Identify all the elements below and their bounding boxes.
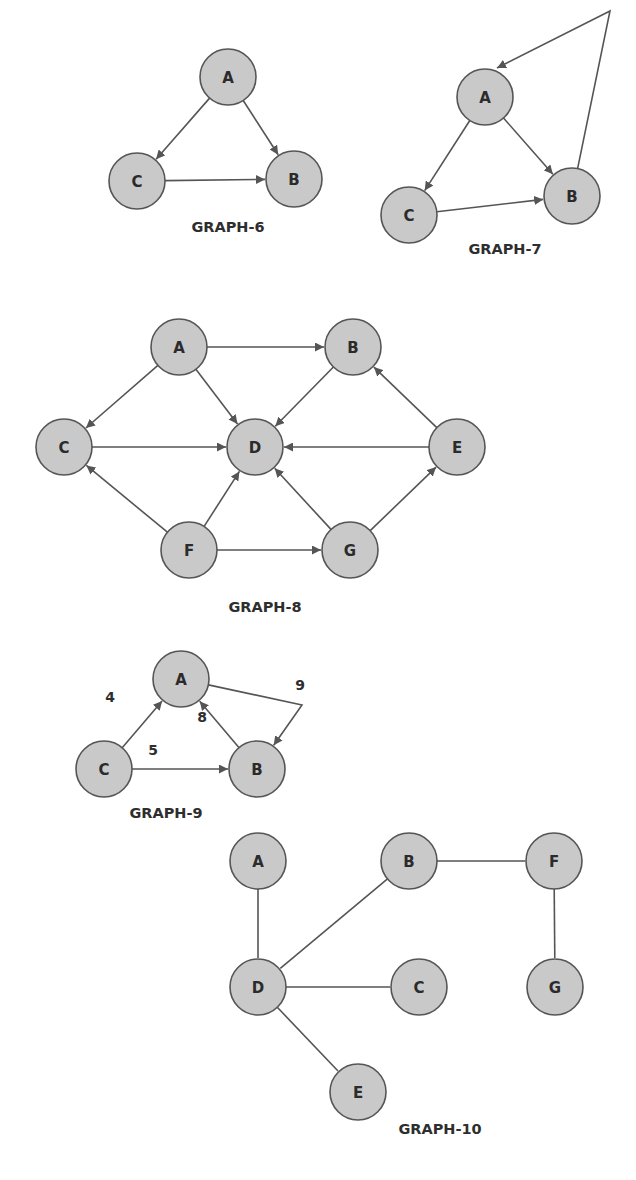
edge-B-to-A: [497, 11, 610, 169]
node-A: A: [151, 319, 207, 375]
node-A: A: [200, 49, 256, 105]
graph10-group: ABFDCGEGRAPH-10: [230, 833, 583, 1137]
edge-B-to-D: [280, 879, 387, 969]
edge-G-to-E: [370, 467, 436, 530]
edge-A-to-D: [196, 369, 238, 424]
edge-F-to-G: [554, 889, 555, 958]
node-C: C: [76, 741, 132, 797]
graph10-caption: GRAPH-10: [398, 1121, 481, 1137]
node-C: C: [36, 419, 92, 475]
node-A: A: [457, 69, 513, 125]
edge-C-to-A: [122, 701, 162, 748]
node-A: A: [230, 833, 286, 889]
node-label: E: [353, 1084, 363, 1102]
node-E: E: [330, 1064, 386, 1120]
edge-G-to-D: [275, 468, 331, 529]
graph8-group: ABCDEFGGRAPH-8: [36, 319, 485, 615]
graph6-group: ACBGRAPH-6: [109, 49, 322, 235]
node-label: A: [222, 69, 234, 87]
node-label: D: [252, 979, 264, 997]
node-B: B: [544, 168, 600, 224]
node-D: D: [230, 959, 286, 1015]
edge-A-to-C: [86, 365, 158, 428]
edge-A-to-B: [504, 118, 553, 174]
node-label: A: [252, 853, 264, 871]
edge-B-to-D: [275, 367, 333, 426]
node-label: B: [251, 761, 262, 779]
node-G: G: [322, 522, 378, 578]
node-label: A: [479, 89, 491, 107]
node-E: E: [429, 419, 485, 475]
node-label: B: [288, 171, 299, 189]
graph6-caption: GRAPH-6: [191, 219, 264, 235]
graphs-root: ACBGRAPH-6ACBGRAPH-7ABCDEFGGRAPH-84589AB…: [36, 11, 610, 1137]
edge-A-to-C: [156, 98, 210, 159]
node-label: C: [58, 439, 69, 457]
node-C: C: [391, 959, 447, 1015]
node-B: B: [266, 151, 322, 207]
graph7-group: ACBGRAPH-7: [381, 11, 610, 257]
node-G: G: [527, 959, 583, 1015]
node-label: C: [131, 173, 142, 191]
node-F: F: [161, 522, 217, 578]
node-label: B: [403, 853, 414, 871]
edge-A-to-B: [243, 101, 278, 155]
node-label: B: [347, 339, 358, 357]
edge-D-to-E: [277, 1007, 338, 1071]
node-B: B: [381, 833, 437, 889]
graph6-edges: [156, 98, 278, 181]
node-label: G: [549, 979, 561, 997]
node-label: G: [344, 542, 356, 560]
node-C: C: [109, 153, 165, 209]
node-label: D: [249, 439, 261, 457]
node-label: E: [452, 439, 462, 457]
node-label: F: [549, 853, 559, 871]
node-A: A: [153, 651, 209, 707]
edge-C-to-B: [165, 179, 265, 180]
node-D: D: [227, 419, 283, 475]
edge-F-to-D: [204, 471, 239, 526]
edge-E-to-B: [374, 367, 437, 428]
edge-weight-label: 9: [295, 677, 305, 693]
node-label: C: [413, 979, 424, 997]
node-label: A: [173, 339, 185, 357]
edge-weight-label: 8: [197, 709, 207, 725]
node-label: A: [175, 671, 187, 689]
node-label: B: [566, 188, 577, 206]
edge-A-to-B: [208, 685, 302, 745]
graph9-group: 4589ABCGRAPH-9: [76, 651, 305, 821]
edge-C-to-B: [437, 199, 543, 211]
graph9-caption: GRAPH-9: [129, 805, 202, 821]
edge-weight-label: 4: [105, 689, 115, 705]
graph-diagram-canvas: ACBGRAPH-6ACBGRAPH-7ABCDEFGGRAPH-84589AB…: [0, 0, 636, 1180]
edge-A-to-C: [425, 121, 470, 191]
node-label: C: [403, 207, 414, 225]
node-label: F: [184, 542, 194, 560]
node-C: C: [381, 187, 437, 243]
graph8-caption: GRAPH-8: [228, 599, 301, 615]
edge-F-to-C: [86, 465, 167, 532]
graph7-caption: GRAPH-7: [468, 241, 541, 257]
edge-weight-label: 5: [148, 742, 158, 758]
node-F: F: [526, 833, 582, 889]
node-label: C: [98, 761, 109, 779]
node-B: B: [229, 741, 285, 797]
node-B: B: [325, 319, 381, 375]
